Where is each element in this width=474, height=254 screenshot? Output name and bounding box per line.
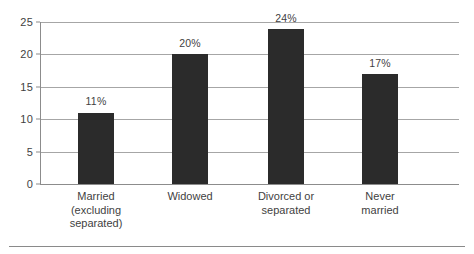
bar-label-widowed: 20% [179, 37, 201, 49]
bar-divorced-or-separated[interactable] [268, 29, 304, 185]
x-axis-label-widowed: Widowed [167, 190, 212, 204]
x-axis-label-line: Never [361, 190, 398, 204]
y-tick-label-20: 20 [20, 48, 33, 60]
x-axis-label-divorced-or-separated: Divorced or separated [258, 190, 314, 217]
gridline-25: 25 [40, 22, 459, 23]
x-axis-label-line: (excluding [70, 204, 123, 218]
gridline-0-baseline: 0 [40, 184, 459, 185]
x-axis-label-line: Widowed [167, 190, 212, 204]
plot-area: 25 20 15 10 5 0 11% 20% 24% [40, 22, 459, 184]
y-tick-label-10: 10 [20, 113, 33, 125]
x-axis-label-line: separated) [70, 217, 123, 231]
x-axis-label-line: separated [258, 204, 314, 218]
bar-married-excluding-separated[interactable] [78, 113, 114, 184]
x-axis-label-line: married [361, 204, 398, 218]
x-axis-label-line: Married [70, 190, 123, 204]
gridline-20: 20 [40, 54, 459, 55]
y-tick-label-25: 25 [20, 16, 33, 28]
x-axis-label-never-married: Never married [361, 190, 398, 217]
x-axis-label-line: Divorced or [258, 190, 314, 204]
y-tick-label-15: 15 [20, 81, 33, 93]
bar-label-never-married: 17% [369, 57, 391, 69]
x-axis-label-married-excluding-separated: Married (excluding separated) [70, 190, 123, 231]
y-axis-line [40, 22, 41, 185]
y-tick-label-0: 0 [27, 178, 33, 190]
bottom-divider-rule [9, 246, 465, 247]
bar-chart-figure: 25 20 15 10 5 0 11% 20% 24% [0, 0, 474, 254]
bar-label-divorced-or-separated: 24% [275, 12, 297, 24]
bar-never-married[interactable] [362, 74, 398, 184]
bar-widowed[interactable] [172, 54, 208, 184]
bar-label-married-excluding-separated: 11% [86, 95, 107, 107]
y-tick-label-5: 5 [27, 146, 33, 158]
